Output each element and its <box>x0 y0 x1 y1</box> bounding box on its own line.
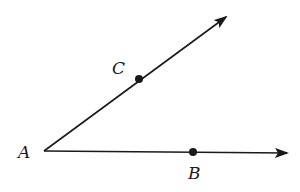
ray-ac <box>44 17 226 151</box>
point-c-dot <box>135 75 143 83</box>
ray-ab <box>44 151 287 153</box>
point-c-label: C <box>112 58 125 78</box>
vertex-a-label: A <box>16 142 30 162</box>
point-b-dot <box>189 148 197 156</box>
point-b-label: B <box>187 163 201 183</box>
angle-diagram: A C B <box>0 0 300 192</box>
